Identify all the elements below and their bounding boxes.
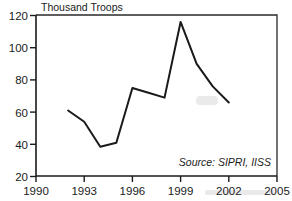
data-series-line	[68, 22, 229, 147]
x-axis-ticks	[36, 176, 277, 182]
x-axis-label-2005: 2005	[264, 185, 290, 197]
y-axis-label-40: 40	[15, 139, 28, 151]
x-axis-label-1996: 1996	[120, 185, 146, 197]
x-axis-label-1993: 1993	[71, 185, 97, 197]
y-axis-ticks	[30, 16, 36, 177]
x-axis-label-1990: 1990	[23, 185, 49, 197]
scan-artifact	[196, 96, 218, 105]
y-axis-label-80: 80	[15, 74, 28, 86]
y-axis-label-60: 60	[15, 107, 28, 119]
chart-title: Thousand Troops	[41, 1, 123, 13]
y-axis-label-100: 100	[9, 42, 28, 54]
x-axis-label-1999: 1999	[168, 185, 194, 197]
y-axis-labels: 120 100 80 60 40 20	[9, 10, 28, 183]
y-axis-label-120: 120	[9, 10, 28, 22]
source-note: Source: SIPRI, IISS	[179, 156, 271, 168]
x-axis-label-2002: 2002	[216, 185, 242, 197]
chart-container: 120 100 80 60 40 20 1990 1993 1996 1999 …	[0, 0, 292, 201]
line-chart: 120 100 80 60 40 20 1990 1993 1996 1999 …	[0, 0, 292, 201]
y-axis-label-20: 20	[15, 171, 28, 183]
